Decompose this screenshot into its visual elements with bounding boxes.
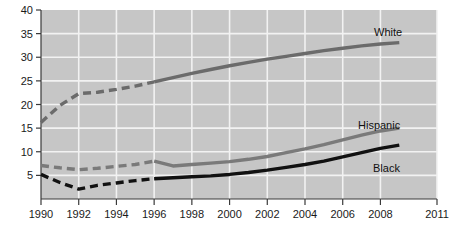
series-label-white: White [374, 26, 402, 38]
x-tick-label: 1992 [66, 208, 90, 220]
x-tick-label: 2008 [368, 208, 392, 220]
series-label-hispanic: Hispanic [358, 119, 401, 131]
x-tick-label: 2002 [255, 208, 279, 220]
series-label-black: Black [373, 162, 400, 174]
x-tick-label: 1990 [29, 208, 53, 220]
y-tick-label: 15 [21, 122, 33, 134]
y-tick-label: 40 [21, 4, 33, 16]
y-tick-label: 5 [27, 169, 33, 181]
x-tick-label: 1998 [180, 208, 204, 220]
x-tick-label: 2004 [293, 208, 317, 220]
x-tick-label: 2006 [330, 208, 354, 220]
x-tick-label: 2011 [425, 208, 449, 220]
y-tick-label: 10 [21, 146, 33, 158]
chart-container: 510152025303540 199019921994199619982000… [0, 0, 450, 229]
y-tick-label: 25 [21, 75, 33, 87]
x-tick-label: 1996 [142, 208, 166, 220]
y-tick-label: 30 [21, 51, 33, 63]
y-tick-label: 35 [21, 28, 33, 40]
x-tick-label: 2000 [217, 208, 241, 220]
line-chart: 510152025303540 199019921994199619982000… [0, 0, 450, 229]
x-tick-label: 1994 [104, 208, 128, 220]
y-tick-label: 20 [21, 99, 33, 111]
